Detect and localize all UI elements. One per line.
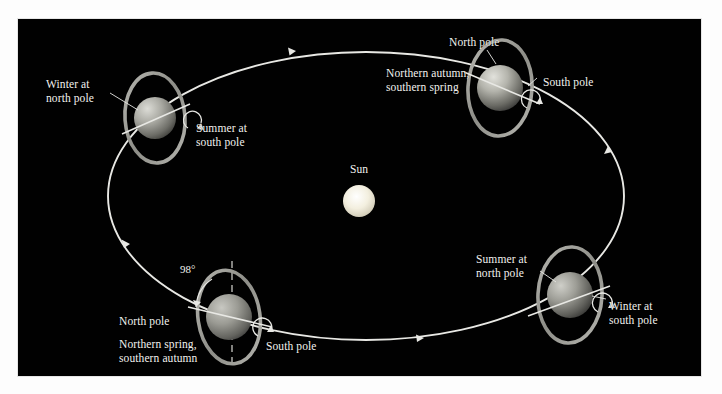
sun-label: Sun (331, 163, 387, 177)
label-winter-at-north-pole: Winter at north pole (46, 78, 94, 105)
label-layer: Sun Winter at north pole Summer at south… (18, 19, 701, 376)
label-south-pole-spring: South pole (266, 340, 317, 354)
diagram-page: Sun Winter at north pole Summer at south… (0, 0, 722, 394)
label-summer-at-south-pole: Summer at south pole (196, 122, 247, 149)
label-summer-at-north-pole: Summer at north pole (476, 253, 527, 280)
label-north-pole-spring: North pole (119, 315, 170, 329)
label-south-pole-autumn: South pole (543, 76, 594, 90)
label-north-pole-autumn: North pole (449, 36, 500, 50)
label-winter-at-south-pole: Winter at south pole (609, 300, 658, 327)
figure-frame: Sun Winter at north pole Summer at south… (18, 19, 701, 376)
axial-tilt-angle-label: 98° (180, 263, 195, 275)
label-northern-autumn-southern-spring: Northern autumn, southern spring (386, 67, 469, 94)
label-northern-spring-southern-autumn: Northern spring, southern autumn (119, 338, 197, 365)
